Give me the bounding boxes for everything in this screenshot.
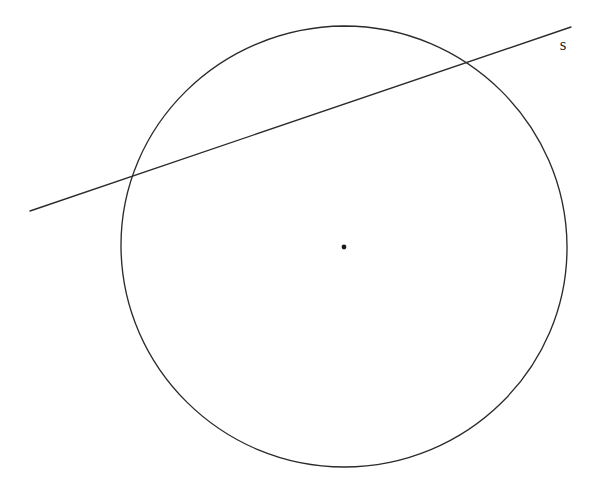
geometry-diagram-svg: s: [0, 0, 603, 502]
circle-center-dot: [342, 245, 347, 250]
secant-label: s: [560, 35, 567, 54]
secant-line-s: [30, 27, 571, 211]
geometry-figure-canvas: s: [0, 0, 603, 502]
